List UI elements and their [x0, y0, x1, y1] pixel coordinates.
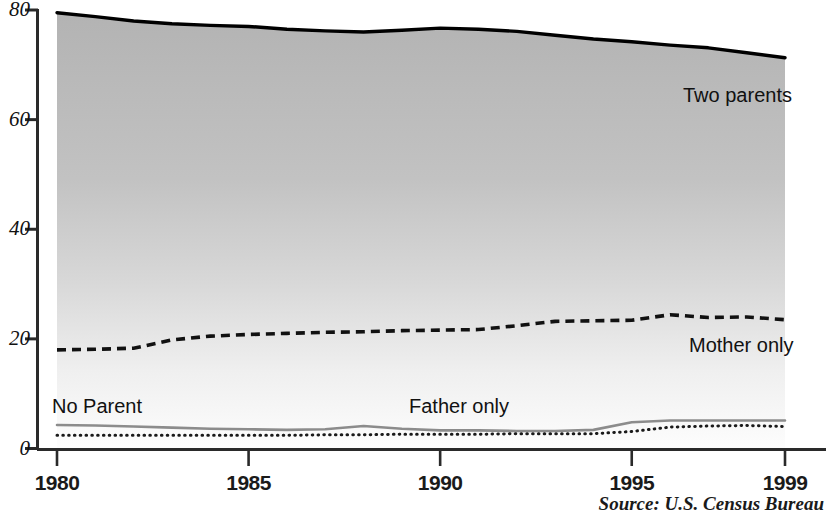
x-tick-label-1985: 1985 — [226, 472, 271, 493]
x-axis-ticks — [57, 450, 785, 466]
source-note: Source: U.S. Census Bureau — [599, 493, 824, 515]
series-label-mother-only: Mother only — [689, 335, 794, 355]
x-tick-label-1990: 1990 — [418, 472, 463, 493]
plot-layer — [57, 13, 785, 449]
series-label-father-only: Father only — [409, 396, 509, 416]
area-chart-svg — [0, 0, 830, 520]
y-tick-label-80: 80 — [0, 0, 30, 20]
chart-container: 020406080 19801985199019951999 Two paren… — [0, 0, 830, 520]
y-tick-label-60: 60 — [0, 109, 30, 130]
y-tick-label-40: 40 — [0, 218, 30, 239]
series-label-no-parent: No Parent — [52, 396, 142, 416]
y-tick-label-20: 20 — [0, 328, 30, 349]
x-tick-label-1995: 1995 — [609, 472, 654, 493]
series-label-two-parents: Two parents — [683, 85, 792, 105]
x-tick-label-1999: 1999 — [763, 472, 808, 493]
area-two-parents — [57, 13, 785, 449]
x-tick-label-1980: 1980 — [35, 472, 80, 493]
y-tick-label-0: 0 — [0, 438, 30, 459]
